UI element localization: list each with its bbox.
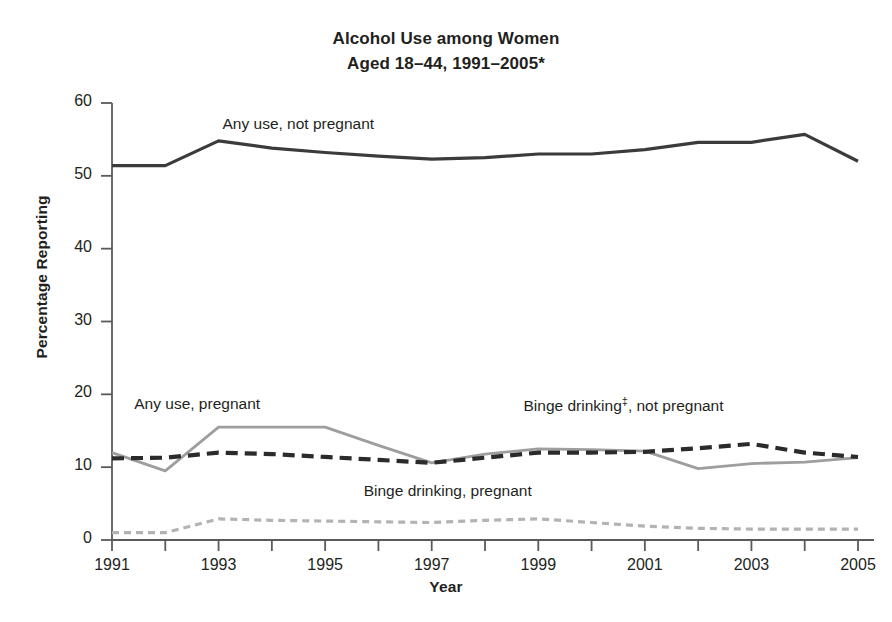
plot-canvas (0, 0, 892, 622)
y-tick-label: 60 (52, 92, 92, 110)
y-tick-label: 40 (52, 238, 92, 256)
series-label-1: Any use, pregnant (134, 395, 260, 413)
y-axis-label: Percentage Reporting (33, 167, 51, 387)
y-tick-label: 30 (52, 311, 92, 329)
y-tick-label: 0 (52, 529, 92, 547)
x-tick-label: 1993 (184, 556, 254, 574)
y-tick-label: 50 (52, 165, 92, 183)
x-axis-label: Year (0, 578, 892, 596)
series-line-0 (112, 134, 858, 165)
data-series-group (112, 134, 858, 532)
series-label-0: Any use, not pregnant (223, 115, 375, 133)
x-tick-label: 1991 (77, 556, 147, 574)
double-dagger-marker: ‡ (622, 395, 628, 407)
x-tick-label: 2003 (716, 556, 786, 574)
y-tick-label: 20 (52, 383, 92, 401)
x-tick-label: 1999 (503, 556, 573, 574)
x-tick-label: 1995 (290, 556, 360, 574)
series-label-2: Binge drinking‡, not pregnant (524, 395, 724, 415)
x-tick-label: 1997 (397, 556, 467, 574)
y-tick-label: 10 (52, 456, 92, 474)
x-tick-label: 2005 (823, 556, 892, 574)
series-line-1 (112, 427, 858, 471)
x-tick-label: 2001 (610, 556, 680, 574)
series-label-3: Binge drinking, pregnant (364, 482, 532, 500)
series-line-3 (112, 519, 858, 533)
chart-figure: Alcohol Use among Women Aged 18–44, 1991… (0, 0, 892, 622)
